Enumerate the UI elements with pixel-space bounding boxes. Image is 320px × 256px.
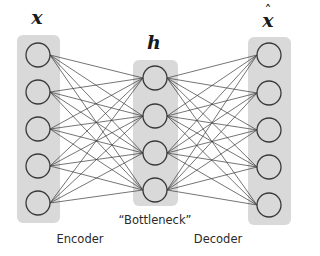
- connection-line: [50, 78, 143, 92]
- input-neuron: [26, 191, 50, 215]
- bottleneck-layer-label: h: [147, 31, 161, 53]
- bottleneck-neuron: [143, 141, 167, 165]
- output-neuron: [257, 43, 281, 67]
- output-neuron: [257, 118, 281, 142]
- output-hat-accent: ˆ: [265, 3, 272, 19]
- connection-line: [50, 153, 143, 203]
- bottleneck-caption: “Bottleneck”: [118, 213, 191, 227]
- connection-line: [167, 55, 257, 153]
- bottleneck-neuron: [143, 66, 167, 90]
- encoder-label: Encoder: [56, 232, 103, 246]
- input-neuron: [26, 117, 50, 141]
- connection-line: [50, 116, 143, 203]
- input-neuron: [26, 43, 50, 67]
- connection-line: [50, 78, 143, 203]
- connection-line: [50, 92, 143, 116]
- output-neuron: [257, 155, 281, 179]
- connection-line: [167, 93, 257, 190]
- output-neuron: [257, 193, 281, 217]
- connection-line: [50, 55, 143, 78]
- output-neuron: [257, 81, 281, 105]
- input-neuron: [26, 80, 50, 104]
- connection-line: [167, 130, 257, 190]
- decoder-label: Decoder: [194, 232, 242, 246]
- connection-line: [50, 116, 143, 129]
- bottleneck-neuron: [143, 178, 167, 202]
- connection-line: [50, 78, 143, 166]
- connection-line: [167, 55, 257, 78]
- input-layer-label: x: [31, 6, 42, 28]
- input-neuron: [26, 154, 50, 178]
- bottleneck-neuron: [143, 104, 167, 128]
- connection-line: [50, 190, 143, 203]
